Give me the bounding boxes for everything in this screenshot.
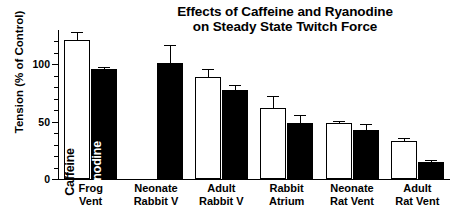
- y-tick-minor: [54, 110, 58, 111]
- error-bar-stem: [300, 115, 301, 123]
- plot-area: 050100 CaffeineRyanodine: [58, 30, 450, 179]
- error-bar-cap: [360, 124, 372, 125]
- y-tick-major: [52, 64, 58, 65]
- error-bar-cap: [267, 96, 279, 97]
- y-tick-label: 50: [38, 116, 50, 128]
- y-tick-label: 0: [44, 173, 50, 185]
- error-bar-cap: [164, 45, 176, 46]
- chart-title-line1: Effects of Caffeine and Ryanodine: [177, 4, 393, 19]
- x-label-adult-rat-vent: AdultRat Vent: [379, 182, 456, 208]
- bar-ryanodine-adult-rabbit-v: [222, 90, 248, 179]
- error-bar-cap: [229, 85, 241, 86]
- error-bar-cap: [425, 160, 437, 161]
- x-axis-line: [58, 179, 450, 180]
- error-bar-stem: [77, 32, 78, 40]
- y-tick-minor: [54, 53, 58, 54]
- y-tick-minor: [54, 145, 58, 146]
- bar-caffeine-rabbit-atrium: [260, 108, 286, 179]
- y-tick-minor: [54, 41, 58, 42]
- error-bar-cap: [294, 115, 306, 116]
- bar-caffeine-adult-rat-vent: [391, 141, 417, 179]
- y-tick-minor: [54, 156, 58, 157]
- bar-ryanodine-neonate-rabbit-v: [157, 63, 183, 179]
- bar-ryanodine-frog-vent: Ryanodine: [91, 69, 117, 179]
- x-label-line: Rat Vent: [379, 195, 456, 208]
- y-tick-major: [52, 179, 58, 180]
- y-tick-minor: [54, 76, 58, 77]
- y-tick-major: [52, 122, 58, 123]
- bar-caffeine-neonate-rat-vent: [326, 123, 352, 179]
- y-tick-minor: [54, 87, 58, 88]
- error-bar-cap: [202, 69, 214, 70]
- error-bar-cap: [333, 121, 345, 122]
- error-bar-cap: [98, 67, 110, 68]
- y-axis-line: [58, 30, 59, 179]
- y-tick-minor: [54, 99, 58, 100]
- bar-ryanodine-adult-rat-vent: [418, 162, 444, 179]
- y-tick-label: 100: [32, 58, 50, 70]
- bar-caffeine-adult-rabbit-v: [195, 77, 221, 179]
- y-axis-label: Tension (% of Control): [13, 0, 25, 147]
- chart-figure: Effects of Caffeine and Ryanodine on Ste…: [0, 0, 462, 217]
- error-bar-stem: [170, 45, 171, 63]
- x-label-line: Adult: [379, 182, 456, 195]
- y-tick-minor: [54, 133, 58, 134]
- bar-ryanodine-rabbit-atrium: [287, 123, 313, 179]
- bar-ryanodine-neonate-rat-vent: [353, 130, 379, 179]
- error-bar-stem: [273, 96, 274, 107]
- error-bar-stem: [208, 69, 209, 77]
- error-bar-cap: [398, 138, 410, 139]
- error-bar-cap: [71, 32, 83, 33]
- y-tick-minor: [54, 168, 58, 169]
- bar-caffeine-frog-vent: Caffeine: [64, 40, 90, 179]
